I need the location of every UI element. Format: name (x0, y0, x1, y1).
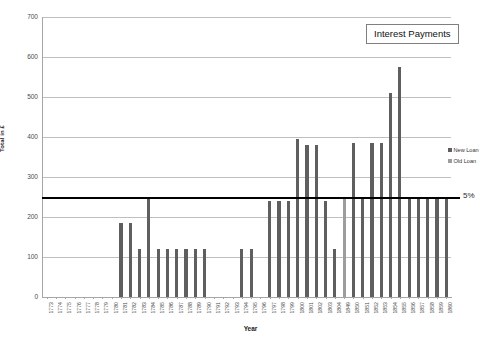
bar-new-loan-1860 (445, 197, 448, 297)
x-tick-mark-1779 (102, 297, 103, 299)
x-tick-mark-1797 (270, 297, 271, 299)
x-tick-label-1773: 1773 (49, 302, 54, 314)
x-tick-mark-1785 (158, 297, 159, 299)
x-tick-label-1788: 1788 (188, 302, 193, 314)
x-tick-mark-1855 (400, 297, 401, 299)
legend-item-old-loan: Old Loan (448, 156, 479, 167)
x-tick-label-1851: 1851 (365, 302, 370, 314)
bar-new-loan-1851 (361, 197, 364, 297)
bar-new-loan-1788 (184, 249, 187, 297)
legend-swatch-icon (448, 159, 452, 163)
x-tick-label-1789: 1789 (197, 302, 202, 314)
x-tick-label-1852: 1852 (374, 302, 379, 314)
bar-new-loan-1781 (119, 223, 122, 297)
bar-new-loan-1790 (203, 249, 206, 297)
x-tick-mark-1790 (205, 297, 206, 299)
x-tick-mark-1781 (121, 297, 122, 299)
x-tick-mark-1852 (372, 297, 373, 299)
bar-new-loan-1797 (268, 201, 271, 297)
x-tick-mark-1777 (84, 297, 85, 299)
bar-new-loan-1795 (250, 249, 253, 297)
x-tick-label-1850: 1850 (355, 302, 360, 314)
x-tick-mark-1803 (326, 297, 327, 299)
x-tick-mark-1798 (279, 297, 280, 299)
x-tick-mark-1854 (391, 297, 392, 299)
legend-label: New Loan (454, 145, 479, 156)
bar-new-loan-1857 (417, 197, 420, 297)
x-tick-label-1796: 1796 (262, 302, 267, 314)
x-tick-mark-1789 (195, 297, 196, 299)
bar-new-loan-1784 (147, 197, 150, 297)
x-tick-label-1856: 1856 (411, 302, 416, 314)
bar-new-loan-1785 (157, 249, 160, 297)
x-tick-label-1849: 1849 (346, 302, 351, 314)
y-tick-label-600: 600 (4, 54, 38, 61)
x-tick-mark-1858 (428, 297, 429, 299)
x-tick-label-1777: 1777 (86, 302, 91, 314)
x-tick-label-1802: 1802 (318, 302, 323, 314)
reference-line-label: 5% (463, 191, 475, 200)
x-tick-mark-1796 (260, 297, 261, 299)
x-tick-mark-1801 (307, 297, 308, 299)
bar-series (42, 17, 451, 297)
x-tick-label-1783: 1783 (142, 302, 147, 314)
bar-new-loan-1803 (324, 201, 327, 297)
x-tick-label-1858: 1858 (430, 302, 435, 314)
x-tick-mark-1786 (167, 297, 168, 299)
bar-old-loan-1849 (343, 197, 346, 297)
x-tick-label-1790: 1790 (207, 302, 212, 314)
x-tick-label-1801: 1801 (309, 302, 314, 314)
bar-new-loan-1800 (296, 139, 299, 297)
x-tick-mark-1788 (186, 297, 187, 299)
legend-item-new-loan: New Loan (448, 145, 479, 156)
x-tick-label-1784: 1784 (151, 302, 156, 314)
x-tick-label-1782: 1782 (132, 302, 137, 314)
x-tick-label-1781: 1781 (123, 302, 128, 314)
y-axis-tick-labels: 0100200300400500600700 (0, 0, 38, 345)
x-tick-label-1791: 1791 (216, 302, 221, 314)
x-tick-label-1786: 1786 (169, 302, 174, 314)
x-tick-mark-1800 (298, 297, 299, 299)
y-axis-line (42, 17, 43, 298)
legend-swatch-icon (448, 148, 452, 152)
bar-new-loan-1798 (277, 201, 280, 297)
x-tick-label-1792: 1792 (225, 302, 230, 314)
plot-area (42, 17, 451, 297)
bar-new-loan-1852 (370, 143, 373, 297)
x-tick-mark-1784 (149, 297, 150, 299)
y-tick-label-400: 400 (4, 134, 38, 141)
x-tick-mark-1860 (446, 297, 447, 299)
x-tick-label-1804: 1804 (337, 302, 342, 314)
x-tick-label-1803: 1803 (328, 302, 333, 314)
bar-new-loan-1804 (333, 249, 336, 297)
bar-new-loan-1783 (138, 249, 141, 297)
x-tick-label-1857: 1857 (420, 302, 425, 314)
legend-label: Old Loan (454, 156, 477, 167)
x-tick-mark-1778 (93, 297, 94, 299)
x-tick-mark-1774 (56, 297, 57, 299)
x-tick-mark-1804 (335, 297, 336, 299)
x-tick-mark-1776 (75, 297, 76, 299)
x-tick-mark-1795 (251, 297, 252, 299)
bar-new-loan-1799 (287, 201, 290, 297)
x-tick-mark-1799 (288, 297, 289, 299)
x-tick-label-1859: 1859 (439, 302, 444, 314)
x-tick-mark-1791 (214, 297, 215, 299)
x-tick-mark-1857 (418, 297, 419, 299)
y-tick-label-300: 300 (4, 174, 38, 181)
y-tick-label-0: 0 (4, 294, 38, 301)
x-tick-mark-1851 (363, 297, 364, 299)
interest-payments-chart: Total in £ 0100200300400500600700 5% 177… (0, 0, 501, 345)
x-tick-label-1778: 1778 (95, 302, 100, 314)
x-tick-label-1798: 1798 (281, 302, 286, 314)
bar-new-loan-1794 (240, 249, 243, 297)
bar-new-loan-1787 (175, 249, 178, 297)
bar-new-loan-1850 (352, 143, 355, 297)
x-tick-mark-1792 (223, 297, 224, 299)
chart-legend: New LoanOld Loan (448, 145, 479, 166)
x-tick-label-1785: 1785 (160, 302, 165, 314)
bar-new-loan-1858 (426, 197, 429, 297)
bar-new-loan-1789 (194, 249, 197, 297)
x-tick-label-1775: 1775 (67, 302, 72, 314)
x-tick-label-1787: 1787 (179, 302, 184, 314)
